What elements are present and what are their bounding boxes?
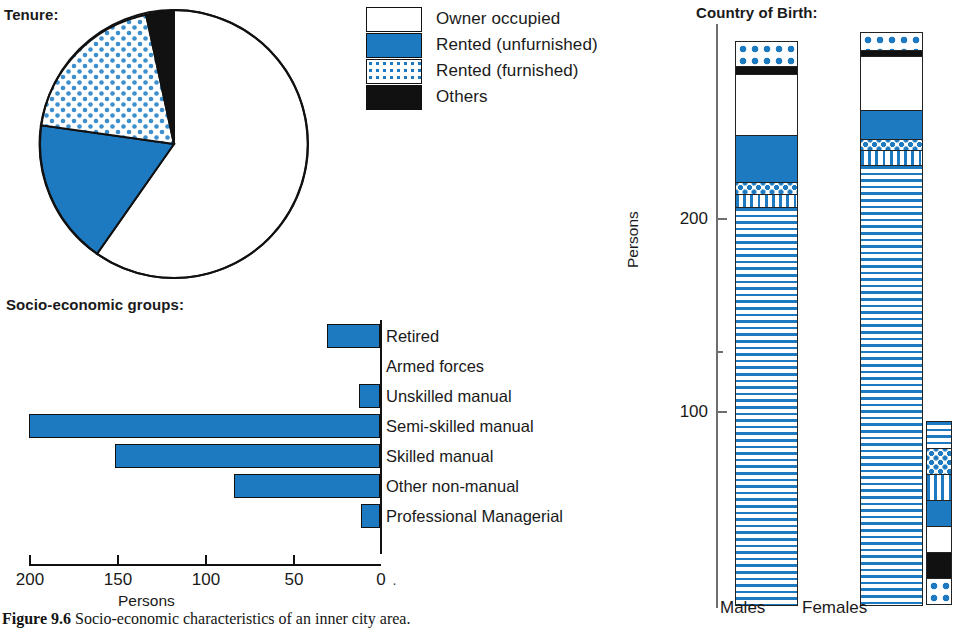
category-label-males: Males (720, 598, 765, 618)
stacked-bar-males (735, 41, 798, 606)
socio-economic-plot-area: Retired Armed forces Unskilled manual Se… (0, 322, 620, 582)
legend-item-rented-unfurnished: Rented (unfurnished) (366, 32, 598, 58)
bar-other-non-manual (234, 474, 380, 498)
y-tick-150-minor (716, 351, 723, 353)
stacked-bar-females (860, 32, 923, 606)
table-row: Other non-manual (0, 472, 620, 500)
bar-segment-diamond (861, 139, 922, 150)
tenure-legend: Owner occupied Rented (unfurnished) Rent… (366, 6, 598, 110)
y-axis-label: Persons (624, 211, 642, 268)
figure-caption-text: Socio-economic characteristics of an inn… (75, 610, 410, 627)
axis-trailing-dot: · (392, 574, 397, 591)
bar-segment-black (736, 66, 797, 74)
bar-label-retired: Retired (386, 322, 439, 350)
bar-skilled-manual (115, 444, 380, 468)
bar-segment-white (736, 74, 797, 135)
legend-label: Others (436, 87, 488, 107)
bar-segment-solid (861, 110, 922, 139)
table-row: Professional Managerial (0, 502, 620, 530)
legend-swatch-hstripe (927, 422, 951, 448)
legend-swatch-white (927, 526, 951, 552)
bar-label-skilled-manual: Skilled manual (386, 442, 493, 470)
pie-svg (38, 8, 310, 280)
x-axis (0, 554, 400, 570)
legend-swatch-solid (927, 500, 951, 526)
x-tick-label-0: 0 (376, 570, 385, 590)
tenure-pie-chart (38, 8, 310, 280)
socio-economic-title: Socio-economic groups: (6, 296, 184, 313)
country-of-birth-chart: Country of Birth: 200 100 Persons Males … (620, 0, 976, 632)
bar-segment-dots (736, 42, 797, 66)
socio-economic-bar-chart: Socio-economic groups: Retired Armed for… (0, 296, 620, 582)
legend-item-rented-furnished: Rented (furnished) (366, 58, 598, 84)
bar-label-armed-forces: Armed forces (386, 352, 484, 380)
bar-label-other-non-manual: Other non-manual (386, 472, 519, 500)
table-row: Retired (0, 322, 620, 350)
legend-swatch-diamond (927, 448, 951, 474)
bar-retired (327, 324, 380, 348)
x-tick-label-50: 50 (285, 570, 304, 590)
legend-label: Rented (furnished) (436, 61, 579, 81)
bar-label-professional-managerial: Professional Managerial (386, 502, 563, 530)
x-tick-label-150: 150 (104, 570, 132, 590)
table-row: Unskilled manual (0, 382, 620, 410)
table-row: Skilled manual (0, 442, 620, 470)
legend-label: Rented (unfurnished) (436, 35, 598, 55)
x-tick-200 (29, 555, 31, 565)
x-tick-label-100: 100 (192, 570, 220, 590)
bar-segment-hstripe (861, 165, 922, 606)
x-tick-100 (205, 555, 207, 565)
legend-swatch-solid-blue (366, 33, 422, 58)
bar-segment-vstripe (861, 150, 922, 165)
country-of-birth-legend (926, 421, 952, 605)
y-tick-label-100: 100 (648, 402, 708, 422)
figure-caption: Figure 9.6 Socio-economic characteristic… (2, 610, 410, 628)
bar-label-semi-skilled-manual: Semi-skilled manual (386, 412, 534, 440)
y-axis-line (716, 24, 718, 608)
bar-segment-white (861, 56, 922, 110)
x-tick-label-200: 200 (16, 570, 44, 590)
bar-segment-vstripe (736, 194, 797, 207)
legend-item-owner-occupied: Owner occupied (366, 6, 598, 32)
legend-swatch-blue-dots (366, 59, 422, 84)
x-axis-label: Persons (118, 592, 175, 610)
y-tick-200 (716, 218, 727, 220)
legend-swatch-black (927, 552, 951, 578)
bar-segment-dots (861, 33, 922, 50)
y-tick-100 (716, 411, 727, 413)
legend-swatch-vstripe (927, 474, 951, 500)
legend-swatch-black (366, 85, 422, 110)
bar-professional-managerial (361, 504, 380, 528)
bar-label-unskilled-manual: Unskilled manual (386, 382, 512, 410)
x-tick-50 (293, 555, 295, 565)
x-tick-150 (117, 555, 119, 565)
figure-caption-prefix: Figure 9.6 (2, 610, 71, 627)
legend-label: Owner occupied (436, 9, 560, 29)
bar-unskilled-manual (359, 384, 380, 408)
category-label-females: Females (802, 598, 867, 618)
table-row: Semi-skilled manual (0, 412, 620, 440)
y-tick-label-200: 200 (648, 209, 708, 229)
bar-segment-solid (736, 135, 797, 182)
legend-swatch-white (366, 7, 422, 32)
legend-swatch-dots (927, 578, 951, 604)
country-of-birth-title: Country of Birth: (696, 4, 818, 21)
table-row: Armed forces (0, 352, 620, 380)
bar-semi-skilled-manual (29, 414, 380, 438)
legend-item-others: Others (366, 84, 598, 110)
bar-segment-hstripe (736, 207, 797, 606)
bar-segment-diamond (736, 182, 797, 194)
